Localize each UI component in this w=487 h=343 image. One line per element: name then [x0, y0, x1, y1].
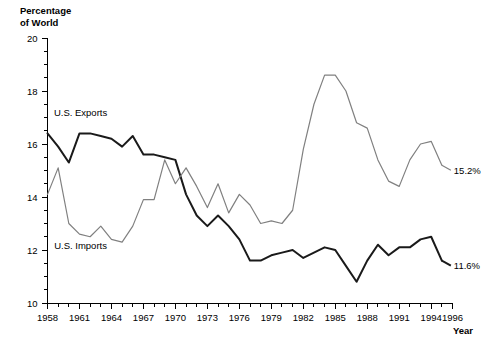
end-leader-line: [442, 261, 451, 266]
x-tick-label: 1994: [421, 312, 442, 323]
y-tick-label: 14: [27, 192, 38, 203]
series-label-exports: U.S. Exports: [54, 107, 108, 118]
end-value-annotations: 11.6%15.2%: [454, 165, 481, 271]
y-tick-label: 18: [27, 86, 38, 97]
y-tick-label: 20: [27, 33, 38, 44]
y-tick-label: 16: [27, 139, 38, 150]
x-tick-labels: 1958196119641967197019731976197919821985…: [37, 312, 463, 323]
chart-axes: [42, 38, 453, 309]
x-tick-label: 1967: [133, 312, 154, 323]
x-tick-label: 1985: [325, 312, 346, 323]
x-tick-label: 1970: [165, 312, 186, 323]
series-label-imports: U.S. Imports: [54, 240, 107, 251]
end-label-exports: 11.6%: [454, 260, 481, 271]
y-tick-labels: 101214161820: [27, 33, 38, 309]
y-axis-title: Percentage of World: [20, 5, 71, 28]
x-axis-title: Year: [453, 325, 473, 336]
x-tick-label: 1961: [69, 312, 90, 323]
end-leader-line: [442, 165, 451, 170]
x-tick-label: 1964: [101, 312, 122, 323]
end-label-imports: 15.2%: [454, 165, 481, 176]
x-tick-label: 1976: [229, 312, 250, 323]
x-tick-label: 1988: [357, 312, 378, 323]
trade-share-line-chart: Percentage of World 101214161820 1958196…: [0, 0, 487, 343]
y-tick-label: 10: [27, 298, 38, 309]
chart-container: Percentage of World 101214161820 1958196…: [0, 0, 487, 343]
series-annotations: U.S. ExportsU.S. Imports: [54, 107, 108, 251]
x-tick-label: 1979: [261, 312, 282, 323]
x-tick-label: 1982: [293, 312, 314, 323]
series-line-exports: [48, 133, 442, 281]
y-tick-label: 12: [27, 245, 38, 256]
x-tick-label: 1991: [389, 312, 410, 323]
y-axis-title-line1: Percentage: [20, 5, 71, 16]
series-line-imports: [48, 75, 442, 242]
x-tick-label: 1996: [442, 312, 463, 323]
x-tick-label: 1958: [37, 312, 58, 323]
data-series-group: [48, 75, 451, 282]
x-tick-label: 1973: [197, 312, 218, 323]
y-axis-title-line2: of World: [20, 17, 59, 28]
